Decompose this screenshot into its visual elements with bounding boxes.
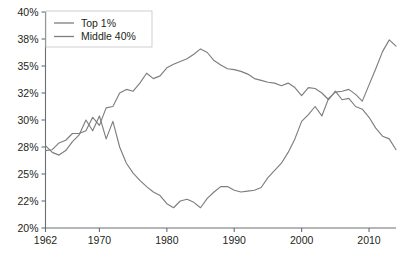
x-tick-label: 2000: [290, 234, 314, 246]
y-tick-label: 35%: [17, 60, 38, 72]
y-tick-label: 25%: [17, 168, 38, 180]
y-axis-tick-labels: 20%22%25%28%30%32%35%38%40%: [17, 6, 38, 234]
x-tick-label: 2010: [357, 234, 381, 246]
y-tick-label: 38%: [17, 33, 38, 45]
legend-label-top-1-percent: Top 1%: [81, 17, 116, 29]
y-tick-label: 32%: [17, 87, 38, 99]
x-axis-tick-marks: [46, 228, 370, 232]
x-axis-tick-labels: 196219701980199020002010: [34, 234, 381, 246]
x-tick-label: 1962: [34, 234, 58, 246]
x-tick-label: 1980: [155, 234, 179, 246]
x-tick-label: 1970: [88, 234, 112, 246]
x-tick-label: 1990: [223, 234, 247, 246]
y-axis-tick-marks: [42, 12, 46, 228]
y-tick-label: 30%: [17, 114, 38, 126]
legend-label-middle-40-percent: Middle 40%: [81, 30, 136, 42]
income-share-line-chart: 20%22%25%28%30%32%35%38%40% 196219701980…: [0, 0, 400, 262]
chart-legend: Top 1% Middle 40%: [46, 11, 152, 47]
y-tick-label: 22%: [17, 195, 38, 207]
series-line-middle-40-percent: [46, 49, 397, 151]
y-tick-label: 28%: [17, 141, 38, 153]
chart-container: 20%22%25%28%30%32%35%38%40% 196219701980…: [0, 0, 400, 262]
y-tick-label: 40%: [17, 6, 38, 18]
y-tick-label: 20%: [17, 222, 38, 234]
